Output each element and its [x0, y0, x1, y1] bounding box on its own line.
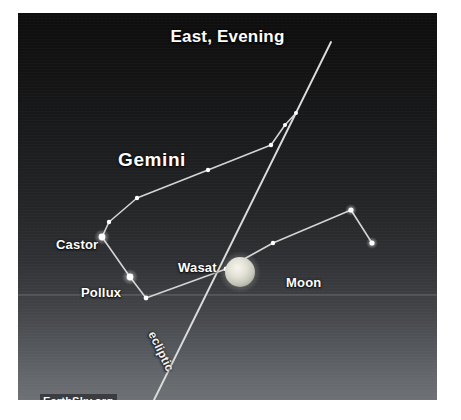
ecliptic-line — [154, 42, 331, 400]
star-gem-right-1 — [271, 241, 275, 245]
star-gem-branch-1 — [283, 123, 287, 127]
sky-panel: East, Evening Gemini Castor Pollux Wasat… — [18, 13, 437, 400]
star-label-castor: Castor — [56, 237, 98, 252]
reference-lines — [18, 42, 437, 400]
star-label-wasat: Wasat — [178, 260, 217, 275]
star-gem-branch-2 — [294, 111, 298, 115]
star-gem-lower-1 — [144, 296, 149, 301]
sky-chart-root: East, Evening Gemini Castor Pollux Wasat… — [0, 0, 461, 420]
moon-disc — [219, 251, 261, 293]
star-gem-upper-3 — [206, 168, 210, 172]
moon-body — [225, 257, 255, 287]
star-gem-upper-2 — [135, 196, 139, 200]
sky-drawing-layer — [18, 13, 437, 400]
star-gem-right-3 — [369, 240, 374, 245]
moon-label: Moon — [286, 275, 321, 290]
star-label-pollux: Pollux — [81, 285, 121, 300]
star-gem-right-2 — [348, 207, 353, 212]
star-gem-upper-1 — [107, 220, 111, 224]
credit-watermark: EarthSky.org — [40, 394, 117, 400]
constellation-label-gemini: Gemini — [118, 149, 186, 171]
star-pollux — [127, 274, 134, 281]
star-gem-upper-4 — [269, 143, 273, 147]
star-castor — [99, 234, 106, 241]
chart-title: East, Evening — [18, 27, 437, 47]
